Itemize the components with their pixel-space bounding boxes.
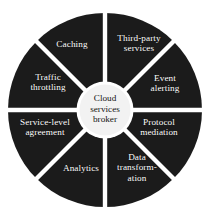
cloud-services-broker-diagram: Caching Third-party services Event alert…: [0, 0, 210, 222]
hub-circle: [80, 85, 131, 136]
wheel-graphic: [0, 0, 210, 222]
